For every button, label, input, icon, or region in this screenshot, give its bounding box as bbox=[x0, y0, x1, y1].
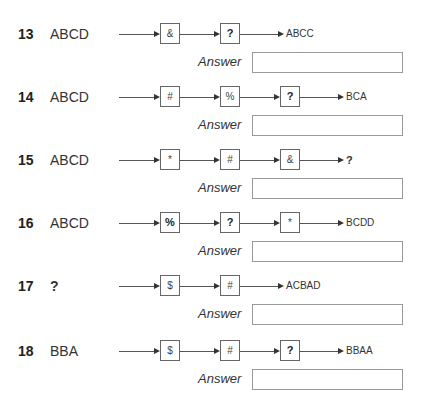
question-number: 16 bbox=[18, 213, 34, 233]
arrow-right-icon bbox=[338, 348, 344, 354]
operation-box: $ bbox=[160, 340, 180, 361]
operation-box: & bbox=[160, 23, 180, 44]
arrow-line bbox=[240, 97, 274, 98]
question-14: 14 ABCD # % ? BCA Answer bbox=[0, 87, 422, 150]
operation-box-unknown: ? bbox=[280, 340, 300, 361]
answer-input[interactable] bbox=[252, 115, 403, 136]
answer-label: Answer bbox=[198, 241, 241, 261]
operation-box: # bbox=[220, 149, 240, 170]
operation-box-unknown: ? bbox=[280, 86, 300, 107]
answer-input[interactable] bbox=[252, 178, 403, 199]
operation-box: * bbox=[280, 212, 300, 233]
input-string-unknown: ? bbox=[50, 276, 59, 296]
operation-box: % bbox=[220, 86, 240, 107]
input-string: BBA bbox=[50, 341, 78, 361]
question-15: 15 ABCD * # & ? Answer bbox=[0, 150, 422, 213]
question-18: 18 BBA $ # ? BBAA Answer bbox=[0, 341, 422, 404]
question-number: 18 bbox=[18, 341, 34, 361]
arrow-line bbox=[119, 34, 154, 35]
operation-box: $ bbox=[160, 275, 180, 296]
input-string: ABCD bbox=[50, 213, 89, 233]
output-string-unknown: ? bbox=[346, 153, 353, 167]
arrow-line bbox=[180, 286, 214, 287]
operation-box: # bbox=[160, 86, 180, 107]
answer-label: Answer bbox=[198, 115, 241, 135]
question-16: 16 ABCD % ? * BCDD Answer bbox=[0, 213, 422, 276]
input-string: ABCD bbox=[50, 87, 89, 107]
answer-input[interactable] bbox=[252, 241, 403, 262]
arrow-line bbox=[300, 223, 338, 224]
arrow-line bbox=[300, 351, 338, 352]
output-string: BBAA bbox=[346, 344, 373, 358]
output-string: BCDD bbox=[346, 216, 374, 230]
arrow-line bbox=[300, 160, 338, 161]
arrow-line bbox=[180, 160, 214, 161]
operation-box: # bbox=[220, 275, 240, 296]
question-number: 15 bbox=[18, 150, 34, 170]
answer-input[interactable] bbox=[252, 52, 403, 73]
question-number: 14 bbox=[18, 87, 34, 107]
arrow-line bbox=[180, 223, 214, 224]
arrow-right-icon bbox=[338, 220, 344, 226]
question-number: 13 bbox=[18, 24, 34, 44]
arrow-line bbox=[240, 34, 278, 35]
arrow-line bbox=[119, 351, 154, 352]
arrow-right-icon bbox=[338, 94, 344, 100]
arrow-line bbox=[240, 160, 274, 161]
arrow-line bbox=[119, 286, 154, 287]
arrow-line bbox=[180, 97, 214, 98]
output-string: ABCC bbox=[286, 27, 314, 41]
arrow-line bbox=[240, 223, 274, 224]
answer-input[interactable] bbox=[252, 369, 403, 390]
arrow-line bbox=[119, 223, 154, 224]
input-string: ABCD bbox=[50, 24, 89, 44]
output-string: ACBAD bbox=[286, 279, 320, 293]
question-number: 17 bbox=[18, 276, 34, 296]
arrow-line bbox=[119, 160, 154, 161]
operation-box-unknown: ? bbox=[220, 23, 240, 44]
answer-label: Answer bbox=[198, 304, 241, 324]
arrow-line bbox=[240, 351, 274, 352]
operation-box: * bbox=[160, 149, 180, 170]
arrow-line bbox=[240, 286, 278, 287]
answer-label: Answer bbox=[198, 369, 241, 389]
arrow-line bbox=[300, 97, 338, 98]
operation-box: % bbox=[160, 212, 180, 233]
arrow-right-icon bbox=[278, 31, 284, 37]
arrow-right-icon bbox=[338, 157, 344, 163]
question-13: 13 ABCD & ? ABCC Answer bbox=[0, 24, 422, 87]
operation-box: # bbox=[220, 340, 240, 361]
input-string: ABCD bbox=[50, 150, 89, 170]
output-string: BCA bbox=[346, 90, 367, 104]
question-17: 17 ? $ # ACBAD Answer bbox=[0, 276, 422, 339]
arrow-line bbox=[180, 351, 214, 352]
arrow-line bbox=[119, 97, 154, 98]
answer-label: Answer bbox=[198, 178, 241, 198]
arrow-line bbox=[180, 34, 214, 35]
answer-label: Answer bbox=[198, 52, 241, 72]
answer-input[interactable] bbox=[252, 304, 403, 325]
operation-box: & bbox=[280, 149, 300, 170]
operation-box-unknown: ? bbox=[220, 212, 240, 233]
arrow-right-icon bbox=[278, 283, 284, 289]
